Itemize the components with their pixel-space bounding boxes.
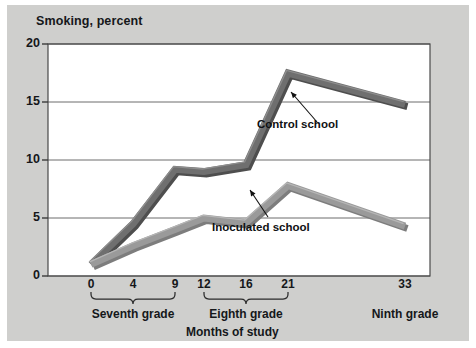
x-tick-label-12: 12: [189, 277, 219, 291]
y-tick-label-0: 0: [14, 268, 40, 282]
x-tick-label-9: 9: [160, 277, 190, 291]
y-tick-label-10: 10: [14, 152, 40, 166]
brace-seventh-grade: [91, 292, 175, 304]
chart-figure: Smoking, percent 2015105004912162133Seve…: [0, 0, 476, 348]
group-label-eighth-grade: Eighth grade: [186, 307, 306, 321]
y-tick-label-20: 20: [14, 36, 40, 50]
group-label-ninth-grade: Ninth grade: [345, 307, 465, 321]
x-tick-label-0: 0: [76, 277, 106, 291]
x-tick-label-4: 4: [118, 277, 148, 291]
x-axis-title: Months of study: [186, 325, 279, 339]
y-tick-label-15: 15: [14, 94, 40, 108]
x-tick-label-16: 16: [231, 277, 261, 291]
group-label-seventh-grade: Seventh grade: [73, 307, 193, 321]
x-tick-label-21: 21: [273, 277, 303, 291]
plot-canvas: [0, 0, 476, 348]
x-tick-label-33: 33: [390, 277, 420, 291]
control-school-label: Control school: [257, 118, 338, 130]
brace-eighth-grade: [204, 292, 288, 304]
inoculated-school-label: Inoculated school: [212, 221, 310, 233]
y-tick-label-5: 5: [14, 210, 40, 224]
